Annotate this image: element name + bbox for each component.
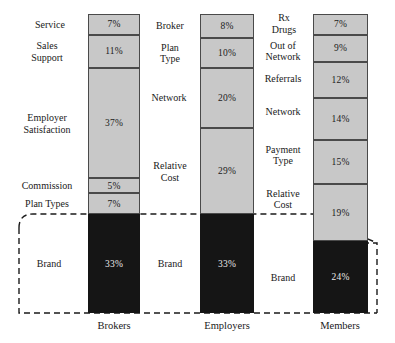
label-sales-support: Sales Support xyxy=(10,35,84,68)
label-network-mem: Network xyxy=(254,98,312,126)
segment-commission: 5% xyxy=(88,178,140,193)
label-out-of-network: Out of Network xyxy=(254,37,312,65)
label-employer-satisfaction: Employer Satisfaction xyxy=(8,68,86,179)
stacked-bar-chart: 7% 11% 37% 5% 7% 33% Service Sales Suppo… xyxy=(0,0,395,343)
segment-employer-satisfaction: 37% xyxy=(88,68,140,179)
segment-referrals: 12% xyxy=(313,62,368,98)
segment-network-emp: 20% xyxy=(200,68,254,128)
label-relative-cost-mem: Relative Cost xyxy=(254,184,312,214)
label-network-emp: Network xyxy=(140,68,198,128)
label-service: Service xyxy=(16,14,84,35)
segment-brand-brokers: 33% xyxy=(88,214,140,313)
segment-plan-type: 10% xyxy=(200,38,254,68)
segment-service: 7% xyxy=(88,14,140,35)
label-plan-type: Plan Type xyxy=(142,38,198,68)
label-plan-types: Plan Types xyxy=(10,193,84,214)
label-broker: Broker xyxy=(142,14,198,38)
label-brand-employers: Brand xyxy=(142,214,198,313)
segment-out-of-network: 9% xyxy=(313,35,368,62)
segment-rx-drugs: 7% xyxy=(313,14,368,35)
segment-sales-support: 11% xyxy=(88,35,140,68)
label-payment-type: Payment Type xyxy=(254,140,312,170)
category-label-employers: Employers xyxy=(193,320,261,331)
category-label-members: Members xyxy=(307,320,373,331)
label-relative-cost-emp: Relative Cost xyxy=(142,128,198,215)
label-commission: Commission xyxy=(10,178,84,193)
segment-brand-members: 24% xyxy=(313,241,368,313)
bar-brokers: 7% 11% 37% 5% 7% 33% xyxy=(88,14,140,313)
segment-network-mem: 14% xyxy=(313,98,368,140)
label-referrals: Referrals xyxy=(254,65,312,93)
segment-payment-type: 15% xyxy=(313,140,368,185)
label-rx-drugs: Rx Drugs xyxy=(256,10,312,37)
segment-relative-cost-emp: 29% xyxy=(200,128,254,215)
segment-brand-employers: 33% xyxy=(200,214,254,313)
label-brand-members: Brand xyxy=(254,242,312,313)
bar-employers: 8% 10% 20% 29% 33% xyxy=(200,14,254,313)
segment-relative-cost-mem: 19% xyxy=(313,184,368,241)
category-label-brokers: Brokers xyxy=(82,320,146,331)
segment-broker: 8% xyxy=(200,14,254,38)
segment-plan-types: 7% xyxy=(88,193,140,214)
label-brand-brokers: Brand xyxy=(14,214,84,313)
bar-members: 7% 9% 12% 14% 15% 19% 24% xyxy=(313,14,368,313)
